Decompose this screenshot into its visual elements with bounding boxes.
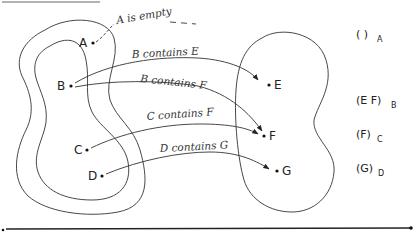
point-c: C <box>74 143 89 157</box>
set-a: ( ) A <box>356 28 383 44</box>
point-b: B <box>57 79 73 93</box>
svg-text:D: D <box>378 169 384 178</box>
svg-text:B: B <box>57 79 65 93</box>
svg-text:A: A <box>377 35 383 44</box>
edge-label-c-f: C contains F <box>146 105 214 122</box>
svg-text:(E F): (E F) <box>356 94 381 107</box>
point-g: G <box>275 164 291 178</box>
set-b: (E F) B <box>356 94 397 110</box>
svg-text:A: A <box>79 36 88 50</box>
svg-text:(F): (F) <box>356 128 371 141</box>
containment-diagram: A is empty B contains E B contains F C c… <box>0 0 414 233</box>
svg-text:(G): (G) <box>356 162 373 175</box>
set-d: (G) D <box>356 162 384 178</box>
point-f: F <box>262 129 276 143</box>
right-region <box>235 32 334 212</box>
edge-label-d-g: D contains G <box>158 138 228 154</box>
inner-left-region <box>35 40 129 200</box>
bottom-rule <box>6 228 410 229</box>
bottom-rule-left-dot <box>2 229 5 232</box>
svg-text:F: F <box>269 129 276 143</box>
point-e: E <box>267 78 281 92</box>
svg-text:D: D <box>88 169 97 183</box>
svg-text:C: C <box>377 135 383 144</box>
point-d: D <box>88 169 104 183</box>
svg-text:B: B <box>391 101 397 110</box>
arrow-d-to-g <box>106 152 269 174</box>
svg-text:( ): ( ) <box>356 28 368 41</box>
bottom-rule-right-dot <box>409 226 413 230</box>
arrow-b-to-f <box>75 82 262 131</box>
a-empty-trailing-dashes <box>170 22 196 24</box>
svg-text:E: E <box>274 78 282 92</box>
point-a: A <box>79 36 95 50</box>
edge-label-b-f: B contains F <box>139 72 208 91</box>
svg-text:G: G <box>282 164 291 178</box>
svg-text:C: C <box>74 143 82 157</box>
set-c: (F) C <box>356 128 383 144</box>
edge-label-a-empty: A is empty <box>114 4 173 26</box>
